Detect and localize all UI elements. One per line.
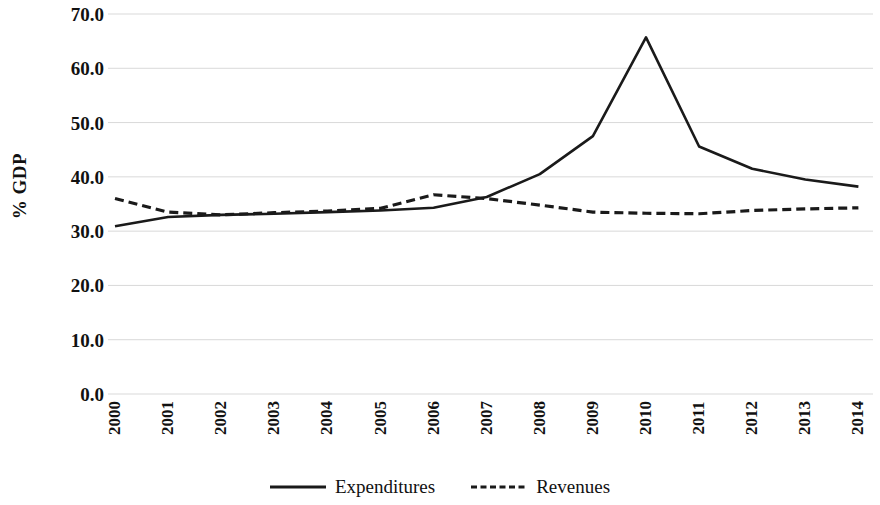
x-tick-label: 2014: [848, 388, 868, 448]
x-tick-label: 2007: [477, 388, 497, 448]
legend-item-expenditures[interactable]: Expenditures: [270, 476, 435, 498]
x-tick-label: 2004: [317, 388, 337, 448]
x-tick-label: 2005: [371, 388, 391, 448]
chart-legend: ExpendituresRevenues: [0, 472, 880, 502]
plot-area: [108, 0, 873, 400]
legend-label: Revenues: [536, 476, 610, 498]
series-line-expenditures: [115, 37, 858, 226]
legend-label: Expenditures: [335, 476, 435, 498]
legend-item-revenues[interactable]: Revenues: [471, 476, 610, 498]
x-tick-label: 2006: [424, 388, 444, 448]
x-tick-label: 2000: [105, 388, 125, 448]
x-tick-label: 2011: [689, 388, 709, 448]
y-tick-label: 70.0: [30, 5, 104, 24]
y-tick-label: 40.0: [30, 167, 104, 186]
x-tick-label: 2009: [583, 388, 603, 448]
x-tick-label: 2012: [742, 388, 762, 448]
x-tick-label: 2003: [264, 388, 284, 448]
x-tick-label: 2010: [636, 388, 656, 448]
x-tick-label: 2002: [211, 388, 231, 448]
gridlines: [108, 14, 873, 394]
legend-swatch-dashed-line-icon: [471, 480, 527, 494]
plot-svg: [108, 0, 873, 400]
x-tick-label: 2001: [158, 388, 178, 448]
x-tick-label: 2013: [795, 388, 815, 448]
y-tick-label: 20.0: [30, 276, 104, 295]
y-tick-label: 10.0: [30, 330, 104, 349]
data-series-group: [115, 37, 858, 226]
x-axis-tick-labels: 2000200120022003200420052006200720082009…: [0, 400, 880, 470]
x-tick-label: 2008: [530, 388, 550, 448]
y-tick-label: 50.0: [30, 113, 104, 132]
legend-swatch-solid-line-icon: [270, 480, 326, 494]
line-chart: % GDP 70.060.050.040.030.020.010.00.0 20…: [0, 0, 880, 505]
y-tick-label: 60.0: [30, 59, 104, 78]
y-tick-label: 30.0: [30, 222, 104, 241]
